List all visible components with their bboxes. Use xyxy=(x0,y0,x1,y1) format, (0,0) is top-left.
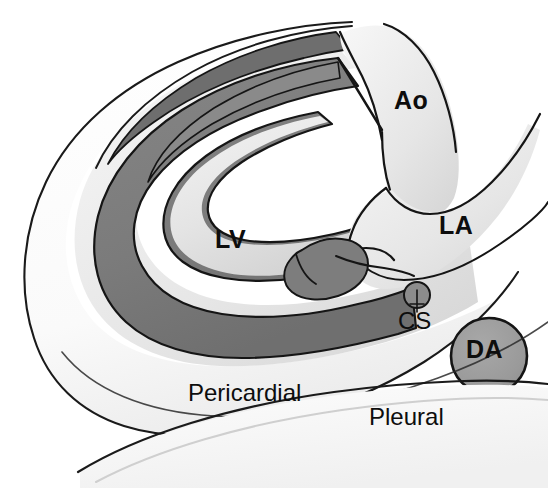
label-pericardial-space: Pericardial xyxy=(188,381,301,405)
figure-canvas: Ao LA LV CS DA Pericardial Pleural xyxy=(0,0,548,488)
label-descending-aorta: DA xyxy=(466,337,503,362)
label-aorta: Ao xyxy=(394,88,428,113)
label-pleural-space: Pleural xyxy=(369,405,444,429)
cardiac-anatomy-diagram xyxy=(0,0,548,488)
label-coronary-sinus: CS xyxy=(398,309,431,333)
label-left-ventricle: LV xyxy=(215,227,246,252)
label-left-atrium: LA xyxy=(439,213,473,238)
